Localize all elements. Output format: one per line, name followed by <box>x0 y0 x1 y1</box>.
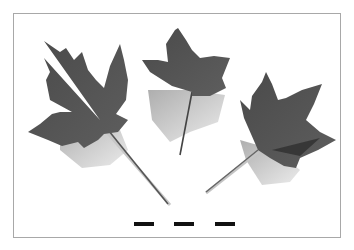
leaf-right <box>206 72 336 193</box>
leaf-middle <box>142 28 230 155</box>
leaves-illustration <box>0 0 354 250</box>
scale-mark-2 <box>174 222 194 226</box>
scale-mark-3 <box>215 222 235 226</box>
scale-mark-1 <box>134 222 154 226</box>
